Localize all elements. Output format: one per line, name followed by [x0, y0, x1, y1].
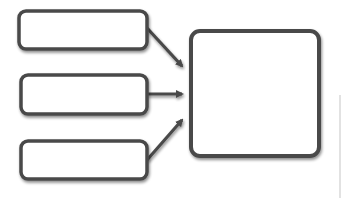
input-box-1 — [19, 11, 147, 49]
arrow-1 — [147, 28, 182, 66]
input-box-3 — [21, 141, 147, 179]
arrow-3 — [147, 120, 182, 160]
flow-diagram — [0, 0, 341, 198]
input-box-2 — [21, 75, 147, 114]
arrows — [147, 28, 182, 160]
input-boxes — [19, 11, 147, 179]
output-box — [191, 31, 319, 156]
